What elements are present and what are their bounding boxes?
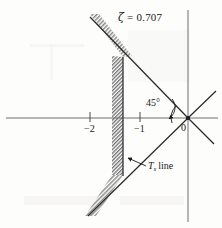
ts-line-word: line <box>158 160 173 171</box>
hatch-segment-lower-diagonal <box>85 175 123 216</box>
ts-line-label: Ts line <box>148 161 173 173</box>
tick-label-minus-one: −1 <box>134 124 145 134</box>
tick-label-minus-two: −2 <box>84 124 95 134</box>
zeta-line-upper <box>90 17 188 118</box>
boundary-hatch-band <box>85 14 132 216</box>
zeta-value-text: = 0.707 <box>124 11 162 23</box>
angle-label: 45° <box>146 98 160 108</box>
zeta-value-label: ζ = 0.707 <box>118 12 162 23</box>
origin-label: 0 <box>181 123 186 133</box>
ts-subscript: s <box>154 165 157 173</box>
hatch-segment-vertical <box>112 56 123 175</box>
zeta-line-lower-right-stub <box>188 118 214 144</box>
zeta-line-upper-right-stub <box>188 91 216 118</box>
s-plane-figure <box>0 0 222 228</box>
origin-point <box>186 116 190 120</box>
